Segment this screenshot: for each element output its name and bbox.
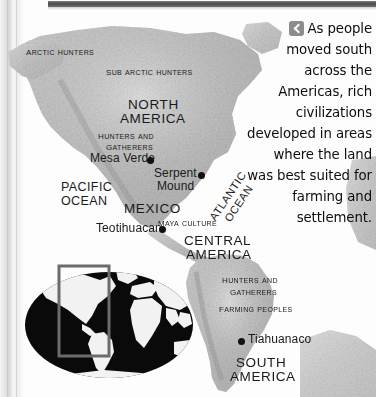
map-label-central-america-line1: CENTRAL [184, 234, 251, 248]
map-site-label-mesa-verde: Mesa Verde [90, 152, 155, 164]
map-label-hunters-and-gatherers-sa-line2: gatherers [230, 286, 277, 298]
map-label-sub-arctic-hunters: Sub Arctic hunters [106, 66, 193, 78]
map-site-dot-teotihuacan [159, 226, 166, 233]
map-site-dot-mesa-verde [147, 157, 154, 164]
textbook-page: Arctic hunters Sub Arctic hunters NORTH … [0, 0, 376, 397]
map-site-dot-tiahuanaco [238, 338, 245, 345]
sidebar-caption-text: As people moved south across the America… [247, 21, 372, 225]
map-label-farming-peoples: Farming peoples [219, 303, 292, 315]
map-label-pacific-ocean-line1: PACIFIC [61, 180, 112, 194]
map-site-dot-serpent-mound [198, 172, 205, 179]
map-site-label-serpent-mound-line1: Serpent [154, 167, 197, 179]
map-label-maya-culture: Maya culture [158, 217, 217, 229]
map-label-south-america-line2: AMERICA [230, 370, 296, 384]
map-site-label-teotihuacan: Teotihuacan [96, 222, 162, 234]
chevron-left-icon[interactable] [289, 21, 304, 36]
map-label-north-america-line2: AMERICA [120, 112, 186, 126]
map-label-hunters-and-gatherers-sa-line1: Hunters and [222, 274, 278, 286]
world-locator-inset [24, 264, 194, 386]
map-label-north-america-line1: NORTH [128, 98, 179, 112]
map-label-arctic-hunters: Arctic hunters [26, 46, 94, 58]
map-label-pacific-ocean-line2: OCEAN [61, 194, 107, 208]
map-site-label-tiahuanaco: Tiahuanaco [248, 333, 311, 345]
map-label-south-america-line1: SOUTH [236, 356, 286, 370]
map-label-central-america-line2: AMERICA [186, 248, 252, 262]
map-site-label-serpent-mound-line2: Mound [157, 180, 194, 192]
sidebar-caption: As people moved south across the America… [246, 18, 372, 228]
map-label-mexico: MEXICO [124, 202, 181, 216]
